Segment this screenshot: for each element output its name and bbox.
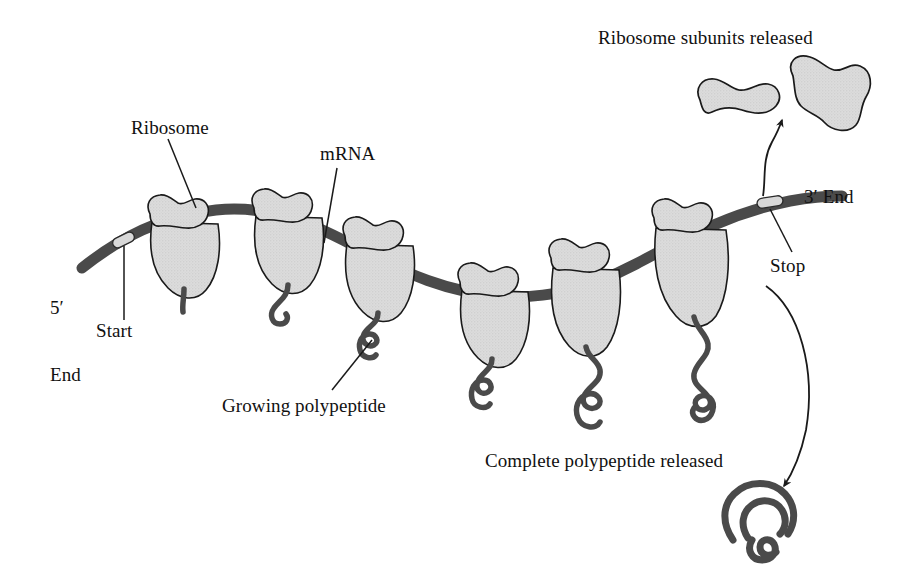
label-growing-polypeptide: Growing polypeptide — [222, 395, 386, 417]
label-start: Start — [96, 320, 132, 342]
leader-stop — [770, 209, 792, 252]
ribosome-5-large-subunit — [552, 268, 621, 356]
released-subunits-group — [698, 56, 870, 196]
ribosome-1 — [148, 195, 219, 312]
label-ribosome-subunits-released: Ribosome subunits released — [598, 27, 813, 49]
ribosome-5-polypeptide — [576, 347, 600, 427]
ribosome-3-small-subunit — [343, 217, 403, 250]
released-large-subunit — [791, 56, 871, 130]
leader-growing-polypeptide — [332, 340, 372, 390]
ribosome-6-small-subunit — [652, 199, 712, 232]
ribosome-2-large-subunit — [255, 216, 324, 294]
label-ribosome: Ribosome — [131, 117, 209, 139]
polypeptide-release-arrow — [766, 286, 809, 486]
label-stop: Stop — [770, 255, 805, 277]
label-three-prime-end: 3′ End — [804, 186, 854, 208]
ribosome-5 — [549, 239, 620, 427]
label-five-prime-line2: End — [50, 364, 81, 386]
label-complete-polypeptide-released: Complete polypeptide released — [485, 450, 723, 472]
ribosome-3 — [343, 217, 414, 358]
ribosome-6 — [652, 199, 728, 420]
translation-diagram: Ribosome mRNA Ribosome subunits released… — [0, 0, 911, 572]
leader-ribosome — [168, 139, 196, 208]
ribosome-1-small-subunit — [148, 195, 208, 228]
ribosome-4 — [458, 263, 529, 408]
label-five-prime-end: 5′ End — [50, 252, 81, 431]
ribosome-2-small-subunit — [252, 189, 312, 222]
complete-folded-polypeptide-tail — [750, 540, 776, 560]
released-small-subunit — [698, 79, 780, 113]
ribosome-6-large-subunit — [655, 228, 728, 327]
subunit-release-arrow — [763, 120, 782, 196]
ribosome-2 — [252, 189, 323, 324]
ribosome-5-small-subunit — [549, 239, 609, 272]
complete-folded-polypeptide-inner — [743, 501, 785, 538]
ribosome-3-large-subunit — [346, 244, 415, 322]
label-five-prime-line1: 5′ — [50, 297, 81, 319]
label-mrna: mRNA — [320, 143, 375, 165]
complete-polypeptide-group — [725, 286, 809, 560]
ribosome-1-polypeptide — [183, 289, 184, 312]
diagram-canvas — [0, 0, 911, 572]
ribosome-6-polypeptide — [693, 317, 714, 420]
ribosome-4-small-subunit — [458, 263, 518, 296]
ribosome-4-polypeptide — [472, 359, 493, 407]
ribosome-4-large-subunit — [461, 290, 530, 368]
